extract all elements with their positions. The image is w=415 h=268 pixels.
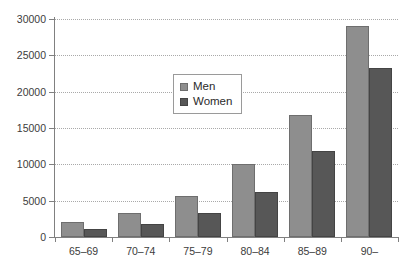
legend-item-men: Men — [180, 79, 232, 94]
bar-women-85–89 — [312, 151, 335, 237]
x-axis-tick-mark — [169, 237, 170, 242]
y-axis-tick-label: 30000 — [17, 13, 46, 25]
y-axis-tick-mark — [49, 164, 54, 165]
bar-men-90– — [346, 26, 369, 237]
bar-men-75–79 — [175, 196, 198, 237]
x-axis-tick-mark — [227, 237, 228, 242]
y-axis-tick-mark — [49, 201, 54, 202]
y-axis-tick-label: 10000 — [17, 158, 46, 170]
bar-chart: 050001000015000200002500030000 65–6970–7… — [0, 0, 415, 268]
y-axis-tick-label: 25000 — [17, 49, 46, 61]
legend-swatch-icon — [180, 83, 188, 91]
legend-label: Men — [193, 81, 215, 93]
bar-women-90– — [369, 68, 392, 237]
y-axis-tick-mark — [49, 92, 54, 93]
bar-women-70–74 — [141, 224, 164, 237]
x-axis-tick-label: 75–79 — [183, 245, 212, 257]
legend-swatch-icon — [180, 98, 188, 106]
y-axis-tick-mark — [49, 19, 54, 20]
bar-women-75–79 — [198, 213, 221, 237]
bar-men-70–74 — [118, 213, 141, 237]
x-axis-tick-label: 80–84 — [240, 245, 269, 257]
y-axis-tick-label: 0 — [40, 231, 46, 243]
y-axis-tick-mark — [49, 128, 54, 129]
legend-item-women: Women — [180, 94, 232, 109]
y-axis-tick-mark — [49, 237, 54, 238]
y-axis-tick-label: 20000 — [17, 86, 46, 98]
bar-men-80–84 — [232, 164, 255, 237]
chart-legend: MenWomen — [173, 74, 242, 114]
x-axis-tick-label: 90– — [361, 245, 379, 257]
bar-women-80–84 — [255, 192, 278, 237]
legend-label: Women — [193, 96, 232, 108]
x-axis-tick-label: 85–89 — [298, 245, 327, 257]
y-axis-tick-mark — [49, 55, 54, 56]
y-axis-line — [54, 17, 55, 238]
x-axis-tick-label: 65–69 — [69, 245, 98, 257]
x-axis-tick-label: 70–74 — [126, 245, 155, 257]
x-axis-tick-mark — [341, 237, 342, 242]
x-axis-tick-mark — [398, 237, 399, 242]
bar-men-85–89 — [289, 115, 312, 237]
gridline — [55, 19, 398, 20]
bar-men-65–69 — [61, 222, 84, 237]
x-axis-tick-mark — [284, 237, 285, 242]
bar-women-65–69 — [84, 229, 107, 237]
plot-area — [55, 19, 398, 237]
x-axis-tick-mark — [55, 237, 56, 242]
x-axis-tick-mark — [112, 237, 113, 242]
y-axis-tick-label: 15000 — [17, 122, 46, 134]
y-axis-tick-label: 5000 — [23, 195, 46, 207]
